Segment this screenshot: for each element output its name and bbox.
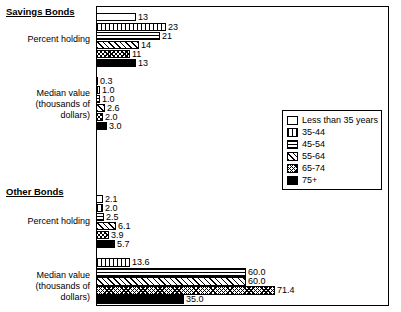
- value-label-other-med-65-74: 71.4: [277, 286, 295, 295]
- median-label-line2: (thousands of: [35, 99, 90, 109]
- legend-swatch-icon-2: [287, 140, 298, 149]
- bar-savings-pct-65-74: [96, 50, 130, 58]
- legend-label-4: 65-74: [302, 163, 325, 173]
- value-label-other-med-75plus: 35.0: [186, 295, 204, 304]
- legend-label-2: 45-54: [302, 139, 325, 149]
- bar-savings-med-65-74: [96, 113, 103, 121]
- bar-other-med-55-64: [96, 277, 246, 286]
- bar-savings-med-35-44: [96, 86, 100, 94]
- median-label-line1: Median value: [36, 88, 90, 98]
- legend-label-3: 55-64: [302, 151, 325, 161]
- category-label-savings-median-value: Median value (thousands of dollars): [0, 88, 90, 121]
- category-label-other-median-value: Median value (thousands of dollars): [0, 270, 90, 303]
- value-label-savings-pct-75plus: 13: [138, 59, 148, 68]
- bar-other-pct-75plus: [96, 240, 115, 248]
- bar-savings-med-75plus: [96, 122, 107, 130]
- legend-item-1: 35-44: [287, 126, 377, 138]
- legend-item-0: Less than 35 years: [287, 114, 377, 126]
- bar-other-pct-45-54: [96, 213, 104, 221]
- value-label-other-med-55-64: 60.0: [248, 277, 266, 286]
- group-title-savings-bonds: Savings Bonds: [6, 6, 75, 17]
- bond-holdings-chart: Savings Bonds Percent holding Median val…: [0, 0, 401, 312]
- legend-label-5: 75+: [302, 175, 317, 185]
- legend-swatch-icon-5: [287, 176, 298, 185]
- value-label-savings-pct-lt35: 13: [138, 13, 148, 22]
- value-label-savings-pct-45-54: 21: [162, 32, 172, 41]
- value-label-other-pct-45-54: 2.5: [106, 213, 119, 222]
- legend-item-4: 65-74: [287, 162, 377, 174]
- value-label-savings-med-75plus: 3.0: [109, 122, 122, 131]
- bar-savings-pct-55-64: [96, 41, 139, 49]
- chart-legend: Less than 35 years35-4445-5455-6465-7475…: [282, 110, 382, 190]
- bar-savings-pct-lt35: [96, 13, 136, 21]
- legend-swatch-icon-0: [287, 116, 298, 125]
- bar-savings-med-lt35: [96, 77, 98, 85]
- median-label-line3: dollars): [60, 292, 90, 302]
- bar-savings-pct-45-54: [96, 32, 160, 40]
- median-label-line2: (thousands of: [35, 281, 90, 291]
- bar-other-pct-65-74: [96, 231, 109, 239]
- group-title-other-bonds: Other Bonds: [6, 186, 64, 197]
- legend-item-5: 75+: [287, 174, 377, 186]
- value-label-other-pct-75plus: 5.7: [117, 240, 130, 249]
- bar-savings-pct-35-44: [96, 23, 166, 31]
- legend-swatch-icon-3: [287, 152, 298, 161]
- value-label-savings-pct-55-64: 14: [141, 41, 151, 50]
- value-label-other-med-lt35: 13.6: [132, 258, 150, 267]
- bar-other-pct-55-64: [96, 222, 116, 230]
- bar-other-med-lt35: [96, 258, 130, 267]
- legend-swatch-icon-4: [287, 164, 298, 173]
- bar-other-pct-35-44: [96, 204, 103, 212]
- bar-other-pct-lt35: [96, 195, 103, 203]
- median-label-line3: dollars): [60, 110, 90, 120]
- bar-savings-med-45-54: [96, 95, 100, 103]
- legend-swatch-icon-1: [287, 128, 298, 137]
- bar-savings-pct-75plus: [96, 59, 136, 67]
- category-label-savings-percent-holding: Percent holding: [0, 34, 90, 45]
- legend-label-0: Less than 35 years: [302, 115, 378, 125]
- bar-other-med-45-54: [96, 268, 246, 277]
- median-label-line1: Median value: [36, 270, 90, 280]
- legend-item-3: 55-64: [287, 150, 377, 162]
- legend-item-2: 45-54: [287, 138, 377, 150]
- category-label-other-percent-holding: Percent holding: [0, 216, 90, 227]
- bar-other-med-75plus: [96, 295, 184, 304]
- bar-savings-med-55-64: [96, 104, 105, 112]
- legend-label-1: 35-44: [302, 127, 325, 137]
- legend-rows: Less than 35 years35-4445-5455-6465-7475…: [287, 114, 377, 186]
